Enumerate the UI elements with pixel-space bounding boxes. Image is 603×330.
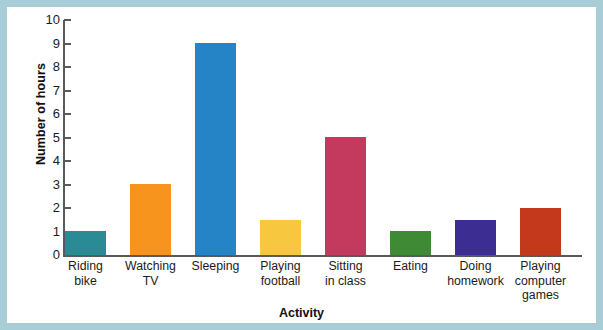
bar — [455, 220, 496, 255]
category-label: Sleeping — [182, 259, 249, 274]
x-axis-line — [63, 255, 582, 257]
chart-plot-area: Number of hours 012345678910 Riding bike… — [7, 7, 596, 323]
bars-layer — [7, 7, 596, 255]
category-label: Playing computer games — [507, 259, 574, 303]
bar — [260, 220, 301, 255]
chart-figure: Number of hours 012345678910 Riding bike… — [0, 0, 603, 330]
category-label: Riding bike — [52, 259, 119, 288]
category-label: Eating — [377, 259, 444, 274]
bar — [390, 231, 431, 255]
bar — [325, 137, 366, 255]
category-label: Doing homework — [442, 259, 509, 288]
x-axis-category-labels: Riding bikeWatching TVSleepingPlaying fo… — [7, 259, 596, 305]
bar — [130, 184, 171, 255]
category-label: Sitting in class — [312, 259, 379, 288]
x-axis-title: Activity — [7, 306, 596, 320]
category-label: Playing football — [247, 259, 314, 288]
category-label: Watching TV — [117, 259, 184, 288]
bar — [195, 43, 236, 255]
bar — [65, 231, 106, 255]
bar — [520, 208, 561, 255]
